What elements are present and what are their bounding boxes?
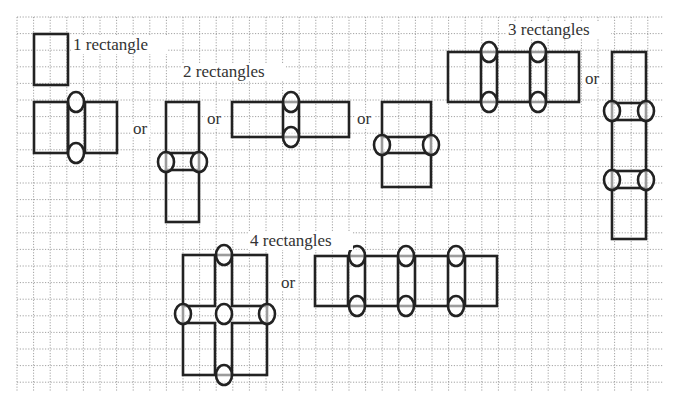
- or-label: or: [357, 109, 372, 128]
- join-ellipse: [398, 296, 414, 316]
- label-2-rectangles: 2 rectangles: [183, 62, 265, 81]
- or-label: or: [585, 69, 600, 88]
- label-3-rectangles: 3 rectangles: [508, 20, 590, 39]
- label-4-rectangles: 4 rectangles: [250, 231, 332, 250]
- join-ellipse: [398, 246, 414, 266]
- join-ellipse: [638, 170, 654, 190]
- join-ellipse: [216, 245, 232, 265]
- join-ellipse: [283, 92, 299, 112]
- join-ellipse: [158, 152, 174, 172]
- join-ellipse: [638, 101, 654, 121]
- join-ellipse: [530, 42, 546, 62]
- join-ellipse: [175, 304, 191, 324]
- join-ellipse: [283, 127, 299, 147]
- or-label: or: [207, 109, 222, 128]
- join-ellipse: [191, 152, 207, 172]
- join-ellipse: [481, 42, 497, 62]
- join-ellipse: [604, 101, 620, 121]
- join-ellipse: [68, 143, 84, 163]
- join-ellipse: [216, 365, 232, 385]
- join-ellipse: [349, 296, 365, 316]
- or-label: or: [133, 119, 148, 138]
- join-ellipse: [423, 135, 439, 155]
- join-ellipse: [374, 135, 390, 155]
- join-ellipse: [448, 246, 464, 266]
- join-ellipse: [481, 92, 497, 112]
- join-ellipse: [216, 304, 232, 324]
- join-ellipse: [448, 296, 464, 316]
- join-ellipse: [604, 170, 620, 190]
- join-ellipse: [68, 92, 84, 112]
- or-label: or: [281, 273, 296, 292]
- join-ellipse: [259, 304, 275, 324]
- background: [0, 0, 676, 403]
- rectangle-arrangements-diagram: 1 rectangle2 rectangles3 rectangles4 rec…: [0, 0, 676, 403]
- join-ellipse: [530, 92, 546, 112]
- label-1-rectangle: 1 rectangle: [73, 35, 148, 54]
